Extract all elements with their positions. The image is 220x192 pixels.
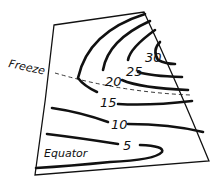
contour-label-15: 15 — [100, 95, 117, 110]
contour-label-5: 5 — [123, 138, 131, 153]
contour-diagram: 30 25 20 15 10 5 Freeze Equator — [0, 0, 220, 192]
equator-label: Equator — [44, 147, 89, 160]
contour-label-30: 30 — [145, 50, 162, 65]
contour-label-10: 10 — [111, 117, 128, 132]
contour-label-25: 25 — [126, 64, 143, 79]
contour-label-20: 20 — [105, 74, 122, 89]
freeze-label: Freeze — [7, 57, 46, 77]
